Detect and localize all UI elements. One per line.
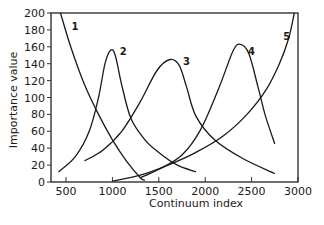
y-tick-label: 40 [31,142,45,155]
curve-5 [112,13,294,181]
x-axis: 50010001500200025003000 [56,177,312,198]
y-axis-label: Importance value [7,51,20,148]
curve-label-1: 1 [72,21,79,32]
x-tick-label: 3000 [284,185,312,198]
curve-2 [59,50,196,172]
y-tick-label: 180 [24,24,45,37]
chart: 020406080100120140160180200 500100015002… [0,0,324,225]
y-tick-label: 0 [38,176,45,189]
y-tick-label: 20 [31,159,45,172]
curves: 12345 [59,13,295,181]
y-tick-label: 120 [24,75,45,88]
y-tick-label: 80 [31,108,45,121]
y-tick-label: 200 [24,7,45,20]
curve-label-5: 5 [283,31,290,42]
y-tick-label: 60 [31,125,45,138]
curve-4 [140,44,274,178]
y-axis: 020406080100120140160180200 [24,7,51,189]
x-tick-label: 1000 [98,185,126,198]
y-tick-label: 160 [24,41,45,54]
y-tick-label: 100 [24,92,45,105]
x-axis-label: Continuum index [149,197,243,210]
x-tick-label: 500 [56,185,77,198]
curve-1 [61,13,145,180]
curve-label-3: 3 [183,56,190,67]
y-tick-label: 140 [24,58,45,71]
curve-label-4: 4 [248,46,255,57]
curve-label-2: 2 [120,46,127,57]
